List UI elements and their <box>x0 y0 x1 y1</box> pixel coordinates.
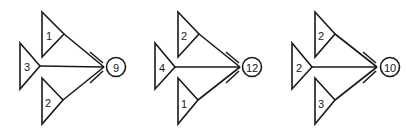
result-label: 9 <box>113 62 119 74</box>
connector-top <box>335 34 377 67</box>
connector-left <box>40 66 104 67</box>
figure-2: 2 4 1 12 <box>155 12 262 124</box>
connector-bottom <box>335 67 377 100</box>
top-triangle-label: 2 <box>181 30 187 42</box>
connector-top <box>199 34 240 67</box>
left-triangle-label: 3 <box>24 61 30 73</box>
connector-top <box>64 34 104 67</box>
result-label: 10 <box>384 62 396 74</box>
top-triangle-label: 1 <box>46 30 52 42</box>
left-triangle-label: 4 <box>159 62 165 74</box>
bottom-triangle-label: 2 <box>45 97 51 109</box>
figure-1: 1 3 2 9 <box>20 12 126 124</box>
connector-bottom <box>198 67 240 100</box>
left-triangle-label: 2 <box>296 62 302 74</box>
result-label: 12 <box>246 62 258 74</box>
connector-bottom <box>63 67 104 100</box>
top-triangle-label: 2 <box>318 30 324 42</box>
puzzle-diagram: 1 3 2 9 2 4 1 12 2 2 3 10 <box>0 0 406 133</box>
figure-3: 2 2 3 10 <box>292 12 400 124</box>
bottom-triangle-label: 3 <box>318 98 324 110</box>
bottom-triangle-label: 1 <box>181 98 187 110</box>
